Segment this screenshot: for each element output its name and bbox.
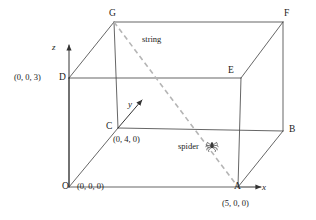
- string-dashed-path: [114, 22, 238, 187]
- string-label: string: [142, 35, 161, 44]
- vertex-label-O: O: [62, 182, 69, 192]
- vertex-label-E: E: [228, 66, 234, 76]
- edge-A-E: [238, 78, 241, 187]
- edge-A-B: [238, 131, 283, 187]
- coord-label-A: (5, 0, 0): [222, 199, 249, 208]
- vertex-label-B: B: [289, 125, 295, 135]
- edge-G-C: [114, 22, 118, 128]
- coord-label-D: (0, 0, 3): [14, 73, 41, 82]
- edge-D-G: [69, 22, 114, 78]
- axis-label-z: z: [52, 43, 56, 52]
- vertex-label-C: C: [106, 122, 112, 132]
- spider-label: spider: [178, 142, 199, 151]
- coord-label-C: (0, 4, 0): [113, 135, 140, 144]
- edge-C-B: [118, 128, 283, 131]
- vertex-label-A: A: [234, 182, 241, 192]
- spider-string-figure: O (0, 0, 0) A (5, 0, 0) B C (0, 4, 0) D …: [0, 0, 316, 220]
- string-line: [114, 22, 238, 187]
- vertex-label-D: D: [59, 73, 66, 83]
- figure-canvas: [0, 0, 316, 220]
- vertex-label-F: F: [284, 9, 289, 19]
- edge-E-F: [241, 22, 283, 78]
- vertex-label-G: G: [109, 9, 116, 19]
- edge-O-C: [69, 128, 118, 187]
- axis-label-x: x: [262, 183, 266, 192]
- coord-label-O: (0, 0, 0): [77, 182, 104, 191]
- axis-label-y: y: [128, 100, 132, 109]
